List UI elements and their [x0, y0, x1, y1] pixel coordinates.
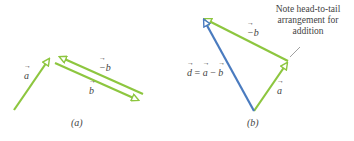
note-pointer-line: [290, 47, 300, 57]
caption-b: (b): [247, 117, 259, 128]
label-d-equation: d = a − b: [187, 67, 223, 78]
label-a-panel-b: a: [277, 85, 282, 96]
label-b-panel-a: b: [89, 85, 94, 96]
vector-a-panel-b: [254, 63, 287, 111]
vector-b-panel-a: [55, 63, 138, 100]
label-minus-b-panel-a: −b: [99, 62, 111, 73]
label-a-panel-a: a: [24, 70, 29, 81]
label-minus-b-panel-b: −b: [247, 27, 259, 38]
caption-a: (a): [71, 117, 83, 128]
note-text: Note head-to-tail arrangement for additi…: [262, 4, 354, 37]
vector-a-panel-a: [14, 59, 49, 110]
